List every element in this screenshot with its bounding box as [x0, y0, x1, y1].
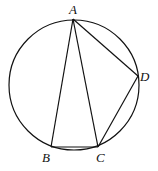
label-a: A [68, 2, 77, 17]
circumcircle [9, 20, 139, 150]
label-c: C [96, 150, 105, 165]
circle-diagram: A B C D [0, 0, 158, 171]
diagram-svg: A B C D [0, 0, 158, 171]
label-b: B [42, 150, 50, 165]
segment-ab [51, 19, 73, 147]
segment-cd [98, 76, 138, 147]
label-d: D [139, 69, 150, 84]
